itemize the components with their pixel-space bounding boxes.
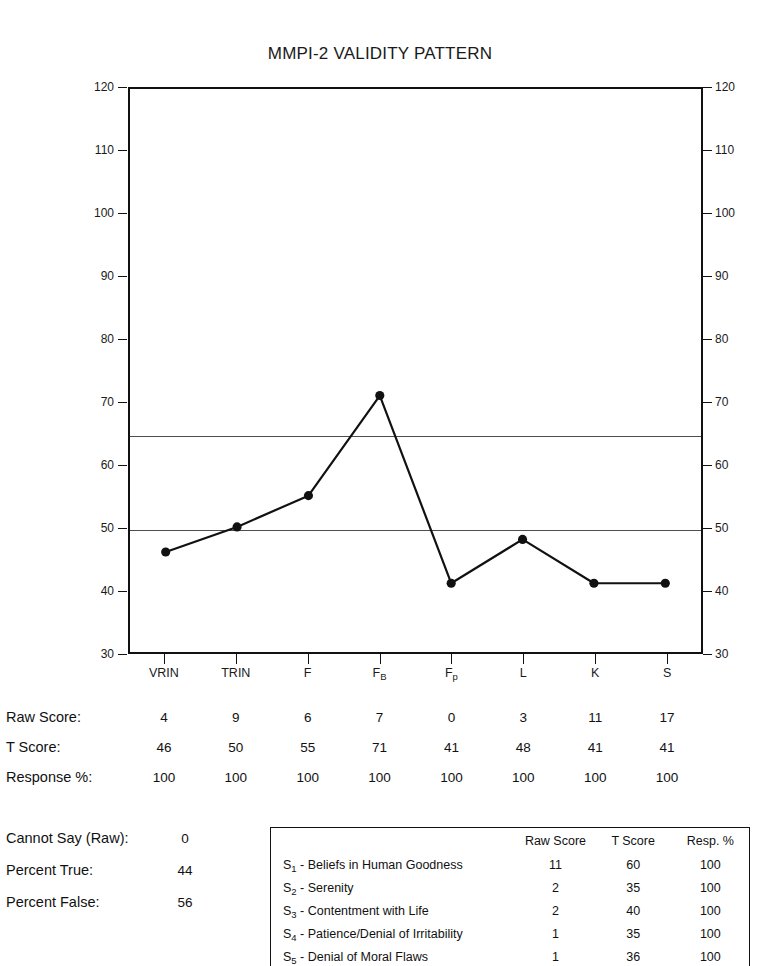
score-cell: 41 bbox=[660, 740, 675, 755]
x-tick-mark bbox=[380, 654, 381, 664]
y-tick-mark-right bbox=[703, 465, 712, 466]
s-subscale-name: S2 - Serenity bbox=[271, 877, 516, 900]
s-table-header-name bbox=[271, 828, 516, 854]
x-axis-label-l: L bbox=[520, 666, 527, 680]
score-cell: 17 bbox=[660, 710, 675, 725]
y-tick-label-right: 50 bbox=[715, 522, 728, 534]
y-tick-mark-left bbox=[118, 528, 127, 529]
y-tick-label-right: 120 bbox=[715, 81, 735, 93]
data-point-fp bbox=[447, 579, 456, 588]
y-tick-label-left: 110 bbox=[95, 144, 114, 156]
table-row: S5 - Denial of Moral Flaws136100 bbox=[271, 946, 749, 966]
x-tick-mark bbox=[451, 654, 452, 664]
data-point-fb bbox=[375, 391, 384, 400]
x-axis-label-s: S bbox=[663, 666, 671, 680]
t-score-line-series bbox=[130, 89, 701, 652]
x-axis-label-fp: Fp bbox=[445, 666, 458, 680]
y-tick-label-left: 100 bbox=[94, 207, 114, 219]
y-tick-mark-left bbox=[118, 591, 127, 592]
s-subscale-t-score: 36 bbox=[595, 946, 672, 966]
s-subscale-t-score: 40 bbox=[595, 900, 672, 923]
page-title: MMPI-2 VALIDITY PATTERN bbox=[0, 44, 760, 64]
s-subscale-raw-score: 1 bbox=[516, 946, 594, 966]
y-tick-label-right: 30 bbox=[715, 648, 728, 660]
summary-label: Percent False: bbox=[6, 894, 100, 910]
score-cell: 4 bbox=[160, 710, 168, 725]
data-point-f bbox=[304, 491, 313, 500]
data-point-l bbox=[518, 535, 527, 544]
score-cell: 3 bbox=[520, 710, 528, 725]
s-subscale-raw-score: 2 bbox=[516, 877, 594, 900]
y-tick-label-left: 70 bbox=[101, 396, 114, 408]
s-subscale-resp-pct: 100 bbox=[672, 923, 749, 946]
chart-plot-area bbox=[128, 87, 703, 654]
score-cell: 100 bbox=[368, 770, 391, 785]
score-cell: 100 bbox=[296, 770, 319, 785]
score-row-label: Raw Score: bbox=[6, 709, 81, 725]
t-score-polyline bbox=[166, 396, 666, 584]
score-cell: 48 bbox=[516, 740, 531, 755]
score-cell: 50 bbox=[228, 740, 243, 755]
s-subscale-resp-pct: 100 bbox=[672, 854, 749, 877]
s-subscale-resp-pct: 100 bbox=[672, 877, 749, 900]
y-tick-mark-left bbox=[118, 276, 127, 277]
table-row: S1 - Beliefs in Human Goodness1160100 bbox=[271, 854, 749, 877]
summary-row: Percent False:56 bbox=[0, 886, 260, 918]
x-axis-label-k: K bbox=[591, 666, 599, 680]
x-axis-label-f: F bbox=[304, 666, 312, 680]
score-cell: 100 bbox=[153, 770, 176, 785]
score-cell: 6 bbox=[304, 710, 312, 725]
s-subscale-name: S5 - Denial of Moral Flaws bbox=[271, 946, 516, 966]
y-tick-mark-right bbox=[703, 402, 712, 403]
summary-block: Cannot Say (Raw):0Percent True:44Percent… bbox=[0, 822, 260, 918]
score-rows-table: Raw Score:4967031117T Score:465055714148… bbox=[0, 702, 760, 792]
summary-row: Cannot Say (Raw):0 bbox=[0, 822, 260, 854]
s-subscale-name: S3 - Contentment with Life bbox=[271, 900, 516, 923]
y-tick-label-left: 90 bbox=[101, 270, 114, 282]
score-cell: 100 bbox=[440, 770, 463, 785]
s-subscale-name: S4 - Patience/Denial of Irritability bbox=[271, 923, 516, 946]
x-tick-mark bbox=[667, 654, 668, 664]
data-point-k bbox=[589, 579, 598, 588]
s-subscale-raw-score: 11 bbox=[516, 854, 594, 877]
y-tick-label-left: 120 bbox=[94, 81, 114, 93]
y-tick-label-left: 30 bbox=[101, 648, 114, 660]
x-axis-label-trin: TRIN bbox=[221, 666, 250, 680]
y-tick-label-right: 100 bbox=[715, 207, 735, 219]
plot-inner bbox=[130, 89, 701, 652]
x-axis-ticks bbox=[128, 654, 703, 666]
x-tick-mark bbox=[236, 654, 237, 664]
y-tick-mark-right bbox=[703, 213, 712, 214]
s-table-header-t-score: T Score bbox=[595, 828, 672, 854]
x-tick-mark bbox=[523, 654, 524, 664]
y-tick-mark-right bbox=[703, 276, 712, 277]
x-tick-mark bbox=[595, 654, 596, 664]
s-table-header-row: Raw Score T Score Resp. % bbox=[271, 828, 749, 854]
x-tick-mark bbox=[308, 654, 309, 664]
x-axis-label-vrin: VRIN bbox=[149, 666, 179, 680]
s-subscale-t-score: 35 bbox=[595, 877, 672, 900]
y-tick-label-right: 60 bbox=[715, 459, 728, 471]
score-cell: 100 bbox=[225, 770, 248, 785]
summary-row: Percent True:44 bbox=[0, 854, 260, 886]
y-tick-label-left: 50 bbox=[101, 522, 114, 534]
score-row: Raw Score:4967031117 bbox=[0, 702, 760, 732]
summary-value: 0 bbox=[181, 831, 189, 846]
y-tick-label-right: 110 bbox=[715, 144, 734, 156]
y-tick-mark-left bbox=[118, 213, 127, 214]
y-tick-mark-left bbox=[118, 465, 127, 466]
score-cell: 100 bbox=[584, 770, 607, 785]
score-cell: 7 bbox=[376, 710, 384, 725]
summary-label: Cannot Say (Raw): bbox=[6, 830, 129, 846]
y-tick-label-left: 80 bbox=[101, 333, 114, 345]
table-row: S2 - Serenity235100 bbox=[271, 877, 749, 900]
s-subscale-resp-pct: 100 bbox=[672, 900, 749, 923]
y-tick-mark-right bbox=[703, 150, 712, 151]
score-row: T Score:4650557141484141 bbox=[0, 732, 760, 762]
s-subscale-resp-pct: 100 bbox=[672, 946, 749, 966]
data-point-vrin bbox=[161, 547, 170, 556]
s-subscale-raw-score: 2 bbox=[516, 900, 594, 923]
s-subscale-raw-score: 1 bbox=[516, 923, 594, 946]
score-cell: 41 bbox=[444, 740, 459, 755]
score-cell: 55 bbox=[300, 740, 315, 755]
